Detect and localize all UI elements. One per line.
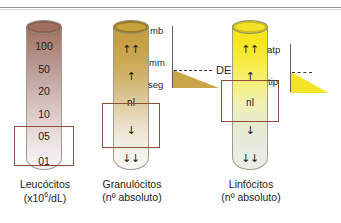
tube-cap-inner-leucocitos [29,23,59,31]
caption-linfocitos-units: (nº absoluto) [202,191,300,204]
top-rule-divider-secondary [0,9,341,10]
tube-cap-inner-linfocitos [235,23,265,31]
caption-linfocitos: Linfócitos (nº absoluto) [202,178,300,204]
caption-units-suffix: /dL) [48,192,66,204]
chart-de-tick-mb: mb [150,26,163,36]
caption-granulocitos-title: Granulócitos [85,178,179,191]
caption-leucocitos: Leucócitos (x106/dL) [0,178,90,205]
chart-tip-tick-atp: atp [267,45,280,55]
caption-granulocitos-units: (nº absoluto) [85,191,179,204]
chart-de-tick-mm: mm [149,58,165,68]
caption-leucocitos-title: Leucócitos [0,178,90,191]
chart-de-triangle [173,70,219,88]
highlight-box-granulocitos [102,103,160,148]
top-rule-divider [0,7,341,8]
tube-cap-inner-granulocitos [116,23,146,31]
chart-de-tick-seg: seg [148,80,163,90]
highlight-box-leucocitos [14,126,74,166]
tube-cap-leucocitos [26,20,62,34]
caption-leucocitos-units: (x106/dL) [0,191,90,205]
chart-tip-triangle [291,72,329,93]
chart-tip-tick-tip: tip [268,77,278,87]
tube-body-granulocitos [113,27,149,170]
figure-canvas: 100 50 20 10 05 01 ↑↑ ↑ nl ↓ ↓↓ ↑↑ ↑ [0,0,341,223]
chart-tip-dashed-line [292,72,312,73]
tube-cap-linfocitos [232,20,268,34]
caption-linfocitos-title: Linfócitos [202,178,300,191]
caption-granulocitos: Granulócitos (nº absoluto) [85,178,179,204]
chart-de-dashed-line [174,70,212,71]
caption-units-prefix: (x10 [24,192,44,204]
tube-cap-granulocitos [113,20,149,34]
chart-de-annotation: DE [216,65,231,76]
